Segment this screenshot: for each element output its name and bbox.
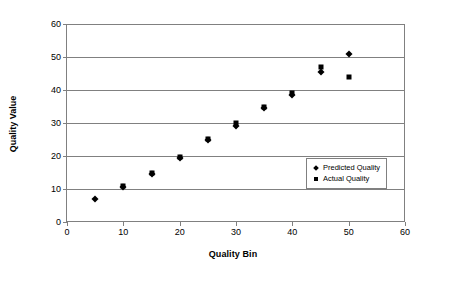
- x-tick-mark-60: [405, 222, 406, 226]
- y-tick-label-10: 10: [51, 185, 61, 194]
- square-marker-icon: [311, 177, 320, 181]
- legend-label: Actual Quality: [323, 175, 369, 183]
- data-point: [177, 154, 182, 159]
- x-axis-title: Quality Bin: [0, 249, 466, 259]
- y-tick-mark-40: [63, 90, 67, 91]
- x-tick-label-10: 10: [118, 228, 128, 237]
- x-tick-label-30: 30: [231, 228, 241, 237]
- x-tick-label-20: 20: [175, 228, 185, 237]
- x-tick-mark-0: [67, 222, 68, 226]
- plot-frame-top: [66, 24, 405, 25]
- legend-label: Predicted Quality: [323, 164, 380, 172]
- plot-area: 01020304050600102030405060: [66, 24, 404, 222]
- y-axis-title: Quality Value: [8, 79, 18, 169]
- y-tick-mark-50: [63, 57, 67, 58]
- y-tick-label-40: 40: [51, 86, 61, 95]
- figure-caption-clipped: [28, 272, 438, 282]
- scatter-chart-figure: 01020304050600102030405060 Quality Value…: [0, 0, 466, 282]
- caption-line: [28, 272, 438, 280]
- y-tick-mark-20: [63, 156, 67, 157]
- y-tick-mark-10: [63, 189, 67, 190]
- gridline-y-20: [67, 156, 405, 157]
- data-point: [290, 90, 295, 95]
- x-tick-label-50: 50: [344, 228, 354, 237]
- y-tick-label-20: 20: [51, 152, 61, 161]
- data-point: [92, 195, 99, 202]
- legend-item-actual-quality: Actual Quality: [311, 174, 380, 184]
- data-point: [234, 121, 239, 126]
- gridline-y-40: [67, 90, 405, 91]
- gridline-y-50: [67, 57, 405, 58]
- x-tick-mark-40: [292, 222, 293, 226]
- x-tick-label-60: 60: [400, 228, 410, 237]
- y-tick-label-0: 0: [56, 218, 61, 227]
- data-point: [262, 105, 267, 110]
- x-tick-mark-20: [180, 222, 181, 226]
- data-point: [346, 74, 351, 79]
- x-tick-mark-50: [349, 222, 350, 226]
- y-tick-label-50: 50: [51, 53, 61, 62]
- y-tick-label-30: 30: [51, 119, 61, 128]
- x-tick-mark-10: [123, 222, 124, 226]
- data-point: [121, 183, 126, 188]
- x-tick-mark-30: [236, 222, 237, 226]
- gridline-y-10: [67, 189, 405, 190]
- legend-item-predicted-quality: Predicted Quality: [311, 163, 380, 173]
- data-point: [149, 171, 154, 176]
- chart-legend: Predicted Quality Actual Quality: [306, 158, 387, 189]
- data-point: [205, 136, 210, 141]
- x-tick-label-0: 0: [64, 228, 69, 237]
- y-tick-label-60: 60: [51, 20, 61, 29]
- data-point: [318, 64, 323, 69]
- plot-frame-right: [404, 24, 405, 222]
- diamond-marker-icon: [311, 166, 320, 170]
- x-tick-label-40: 40: [287, 228, 297, 237]
- y-tick-mark-30: [63, 123, 67, 124]
